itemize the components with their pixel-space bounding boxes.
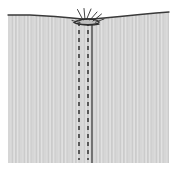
knot-thread-tail <box>84 9 85 20</box>
suture-diagram-svg <box>0 0 177 172</box>
knot-thread-tail <box>87 9 92 20</box>
suture-figure <box>0 0 177 172</box>
